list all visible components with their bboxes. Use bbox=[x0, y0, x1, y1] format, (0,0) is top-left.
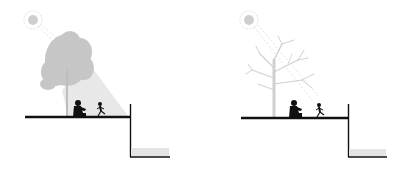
winter-section-diagram bbox=[202, 0, 405, 169]
water-band bbox=[349, 149, 386, 156]
seated-adult-figure bbox=[289, 100, 302, 118]
bare-tree-icon bbox=[246, 36, 314, 117]
water-band bbox=[131, 148, 169, 156]
sun-icon bbox=[24, 11, 42, 29]
running-child-figure bbox=[316, 103, 324, 117]
summer-section-diagram bbox=[0, 0, 202, 169]
sun-rays bbox=[254, 25, 318, 100]
summer-section-panel bbox=[0, 0, 202, 169]
winter-section-panel bbox=[202, 0, 404, 169]
sun-icon bbox=[240, 11, 258, 29]
